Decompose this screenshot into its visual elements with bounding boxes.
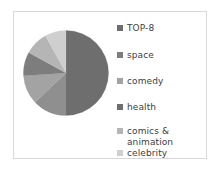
- legend-swatch-icon: [117, 52, 123, 58]
- chart-card: TOP-8spacecomedyhealthcomics & animation…: [13, 11, 207, 159]
- legend-item-label: comics & animation: [127, 126, 207, 147]
- legend-item-label: TOP-8: [127, 23, 154, 34]
- legend-item[interactable]: celebrity: [117, 148, 207, 159]
- pie-slice-group: [23, 30, 108, 115]
- plot-area: TOP-8spacecomedyhealthcomics & animation…: [14, 12, 208, 160]
- legend-item-label: space: [127, 50, 154, 61]
- legend-item[interactable]: TOP-8: [117, 23, 207, 34]
- legend-item[interactable]: comics & animation: [117, 126, 207, 147]
- legend-item-label: comedy: [127, 76, 163, 87]
- legend-swatch-icon: [117, 104, 123, 110]
- legend-item-label: health: [127, 102, 156, 113]
- legend-item-label: celebrity: [127, 148, 167, 159]
- legend-swatch-icon: [117, 128, 123, 134]
- legend-item[interactable]: health: [117, 102, 207, 113]
- chart-legend: TOP-8spacecomedyhealthcomics & animation…: [117, 14, 207, 160]
- pie-slice: [66, 30, 109, 115]
- legend-item[interactable]: space: [117, 50, 207, 61]
- pie-chart: [23, 30, 109, 116]
- legend-swatch-icon: [117, 78, 123, 84]
- legend-swatch-icon: [117, 150, 123, 156]
- legend-swatch-icon: [117, 25, 123, 31]
- legend-item[interactable]: comedy: [117, 76, 207, 87]
